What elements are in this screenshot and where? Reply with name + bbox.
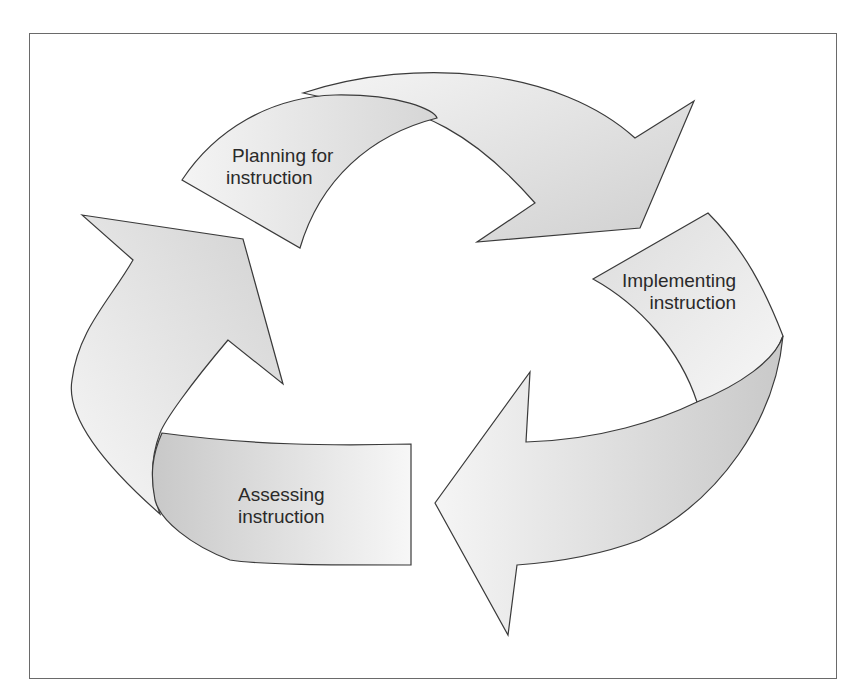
label-planning-line1: Planning for <box>232 145 333 167</box>
label-implementing-line2: instruction <box>622 292 736 314</box>
cycle-diagram <box>0 0 862 697</box>
label-assessing-line2: instruction <box>238 506 325 528</box>
label-implementing-line1: Implementing <box>622 270 736 292</box>
label-assessing: Assessing instruction <box>238 484 325 528</box>
label-planning: Planning for instruction <box>232 145 333 189</box>
label-assessing-line1: Assessing <box>238 484 325 506</box>
label-implementing: Implementing instruction <box>622 270 736 314</box>
label-planning-line2: instruction <box>226 167 333 189</box>
